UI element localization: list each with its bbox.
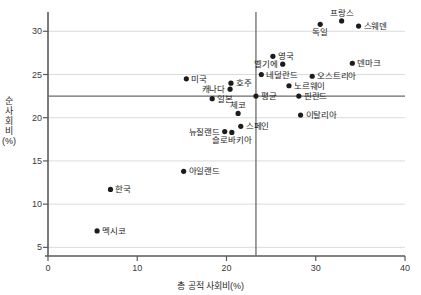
x-tick-label: 40	[400, 264, 410, 273]
data-point-label: 미국	[191, 75, 207, 84]
y-axis-title: 순 사회비(%)	[2, 96, 16, 146]
data-point-label: 아일랜드	[189, 167, 220, 176]
data-point	[339, 18, 344, 23]
x-tick-label: 0	[45, 264, 50, 273]
data-point-label: 캐나다	[202, 85, 225, 94]
data-point	[184, 76, 189, 81]
x-tick-label: 30	[311, 264, 321, 273]
data-point	[280, 62, 285, 67]
data-point-label: 오스트리아	[317, 72, 356, 81]
data-point	[356, 24, 361, 29]
y-tick-label: 15	[18, 156, 42, 165]
data-point-label: 벨기에	[254, 60, 277, 69]
data-point-label: 멕시코	[102, 227, 125, 236]
data-point	[238, 124, 243, 129]
data-point	[259, 72, 264, 77]
data-point	[286, 83, 291, 88]
data-point	[296, 94, 301, 99]
y-tick-label: 30	[18, 27, 42, 36]
data-point	[318, 22, 323, 27]
data-point-label: 덴마크	[357, 59, 380, 68]
data-point	[181, 169, 186, 174]
data-point	[229, 130, 234, 135]
data-point-label: 체코	[230, 101, 246, 110]
data-point	[94, 228, 99, 233]
data-point-label: 핀란드	[304, 92, 327, 101]
data-point-label: 스페인	[246, 122, 269, 131]
data-point-label: 슬로바키아	[212, 136, 251, 145]
x-axis-title: 총 공적 사회비(%)	[0, 279, 421, 292]
data-point	[310, 74, 315, 79]
data-point-label: 이탈리아	[306, 111, 337, 120]
data-point	[236, 111, 241, 116]
x-tick-label: 20	[221, 264, 231, 273]
y-tick-label: 10	[18, 200, 42, 209]
data-point-label: 네덜란드	[266, 70, 297, 79]
y-tick-label: 5	[18, 243, 42, 252]
data-point	[298, 113, 303, 118]
average-label: 평균	[261, 92, 277, 101]
y-tick-label: 25	[18, 70, 42, 79]
data-point-label: 호주	[236, 79, 252, 88]
data-point	[227, 87, 232, 92]
data-point	[350, 61, 355, 66]
data-point	[228, 81, 233, 86]
data-point	[108, 187, 113, 192]
plot-area	[0, 0, 421, 295]
data-point-label: 독일	[312, 28, 328, 37]
data-point-label: 스웨덴	[364, 22, 387, 31]
average-point	[253, 94, 258, 99]
data-point-label: 영국	[278, 52, 294, 61]
scatter-chart: 01020304051015202530평균프랑스스웨덴독일영국벨기에덴마크네덜…	[0, 0, 421, 295]
data-point-label: 프랑스	[330, 8, 353, 17]
y-tick-label: 20	[18, 113, 42, 122]
data-point-label: 한국	[115, 185, 131, 194]
data-point	[210, 96, 215, 101]
x-tick-label: 10	[132, 264, 142, 273]
data-point-label: 노르웨이	[294, 81, 325, 90]
data-point	[222, 129, 227, 134]
